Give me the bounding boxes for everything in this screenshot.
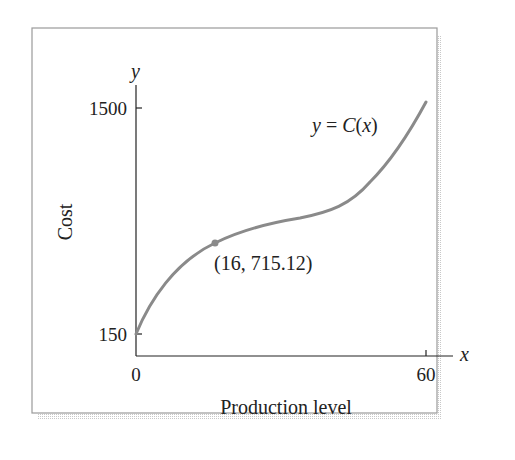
curve-label: y = C(x) <box>310 114 378 137</box>
curve-label-close: ) <box>371 114 378 137</box>
x-axis-symbol: x <box>459 343 469 365</box>
ytick-label-150: 150 <box>99 324 128 345</box>
x-axis-title: Production level <box>220 396 352 418</box>
curve-label-eq: = <box>321 114 342 136</box>
point-label: (16, 715.12) <box>214 252 312 275</box>
curve-label-x: x <box>361 114 371 136</box>
chart-figure: y x 1500 150 0 60 Production level Cost … <box>0 0 515 460</box>
xtick-label-60: 60 <box>417 364 436 385</box>
xtick-label-0: 0 <box>131 364 141 385</box>
chart-frame <box>32 28 437 413</box>
y-axis-title: Cost <box>54 203 76 240</box>
curve-label-c: C <box>342 114 356 136</box>
y-axis-symbol: y <box>129 60 140 83</box>
curve-label-y: y <box>310 114 321 137</box>
ytick-label-1500: 1500 <box>89 98 127 119</box>
data-point-marker <box>212 240 219 247</box>
